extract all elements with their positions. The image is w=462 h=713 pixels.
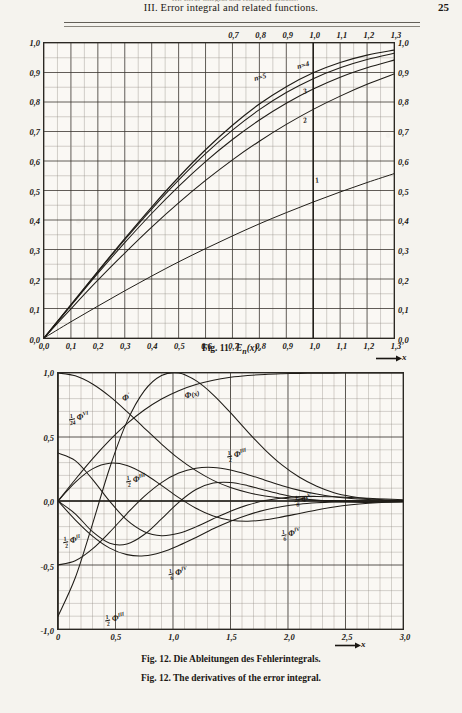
document-page: III. Error integral and related function…: [0, 0, 462, 713]
derivative-order: VI: [82, 410, 89, 417]
figure-11-y-tick-right: 0,3: [398, 246, 409, 256]
figure-11-y-tick-left: 0,3: [29, 246, 40, 256]
figure-11-caption-argument: (x): [247, 343, 258, 353]
figure-11-x-tick-top: 1,3: [391, 30, 402, 40]
figure-12-x-tick: 3,0: [400, 632, 411, 642]
running-head: III. Error integral and related function…: [0, 1, 462, 19]
figure-11-y-tick-left: 0,1: [29, 305, 40, 315]
figure-12-y-tick: 0,5: [43, 433, 54, 443]
header-rule: [64, 22, 420, 27]
derivative-order: II: [75, 532, 80, 539]
derivative-order: III: [138, 471, 145, 478]
figure-11-y-tick-right: 0,5: [398, 187, 409, 197]
figure-12-grid-and-curves: [58, 373, 403, 629]
figure-11-x-tick-top: 1,2: [364, 30, 375, 40]
figure-11-y-tick-left: 1,0: [29, 38, 40, 48]
figure-12-y-tick: 0,0: [43, 497, 54, 507]
figure-11-x-tick-top: 0,8: [255, 30, 266, 40]
figure-12-plot-area: 1,00,50,0-0,5-1,000,51,01,52,02,53,0Φ(x)…: [57, 372, 404, 630]
figure-12-x-tick: 0: [56, 632, 60, 642]
figure-11-caption-number: Fig. 11.: [202, 343, 231, 353]
figure-12-x-axis-arrow: x: [335, 639, 366, 649]
figure-12-y-tick: -0,5: [41, 562, 54, 572]
figure-11-x-tick-top: 1,0: [309, 30, 320, 40]
figure-12-x-tick: 1,0: [168, 632, 179, 642]
derivative-order: III: [239, 446, 246, 453]
derivative-order: III: [117, 611, 124, 618]
running-head-title: III. Error integral and related function…: [0, 2, 462, 13]
figure-12-caption-de: Fig. 12. Die Ableitungen des Fehlerinteg…: [0, 654, 462, 664]
figure-11-y-tick-left: 0,2: [29, 276, 40, 286]
arrow-right-icon: [335, 642, 361, 649]
figure-11-x-tick-top: 0,9: [282, 30, 293, 40]
figure-11-y-tick-left: 0,7: [29, 127, 40, 137]
figure-11-y-tick-right: 0,1: [398, 305, 409, 315]
figure-12-y-tick: 1,0: [43, 368, 54, 378]
derivative-order: V: [306, 492, 311, 499]
figure-11-y-tick-left: 0,5: [29, 187, 40, 197]
figure-11-y-tick-right: 0,6: [398, 157, 409, 167]
figure-11-y-tick-right: 0,2: [398, 276, 409, 286]
figure-11-y-tick-left: 0,8: [29, 97, 40, 107]
figure-11-y-tick-right: 0,7: [398, 127, 409, 137]
figure-12-x-tick: 0,5: [111, 632, 122, 642]
figure-11-x-tick-top: 1,1: [337, 30, 348, 40]
figure-11-caption: Fig. 11. En(x).: [0, 343, 462, 356]
figure-12: 1,00,50,0-0,5-1,000,51,01,52,02,53,0Φ(x)…: [0, 362, 462, 713]
figure-12-x-tick: 1,5: [226, 632, 237, 642]
figure-11: 1,01,00,90,90,80,80,70,70,60,60,50,50,40…: [0, 28, 462, 358]
figure-11-y-tick-right: 0,9: [398, 68, 409, 78]
derivative-order: IV: [180, 564, 187, 571]
figure-11-x-tick-top: 0,7: [228, 30, 239, 40]
derivative-order: IV: [294, 526, 301, 533]
figure-12-y-tick: -1,0: [41, 626, 54, 636]
figure-11-y-tick-left: 0,4: [29, 216, 40, 226]
figure-11-y-tick-left: 0,9: [29, 68, 40, 78]
figure-12-caption-en: Fig. 12. The derivatives of the error in…: [0, 673, 462, 683]
figure-11-plot-area: 1,01,00,90,90,80,80,70,70,60,60,50,50,40…: [43, 42, 395, 339]
figure-11-y-tick-left: 0,6: [29, 157, 40, 167]
figure-11-grid-and-curves: [44, 43, 394, 338]
page-number: 25: [438, 1, 449, 13]
figure-11-y-tick-right: 0,4: [398, 216, 409, 226]
figure-12-x-axis-label: x: [361, 639, 366, 649]
figure-12-x-tick: 2,0: [284, 632, 295, 642]
figure-11-y-tick-right: 0,8: [398, 97, 409, 107]
